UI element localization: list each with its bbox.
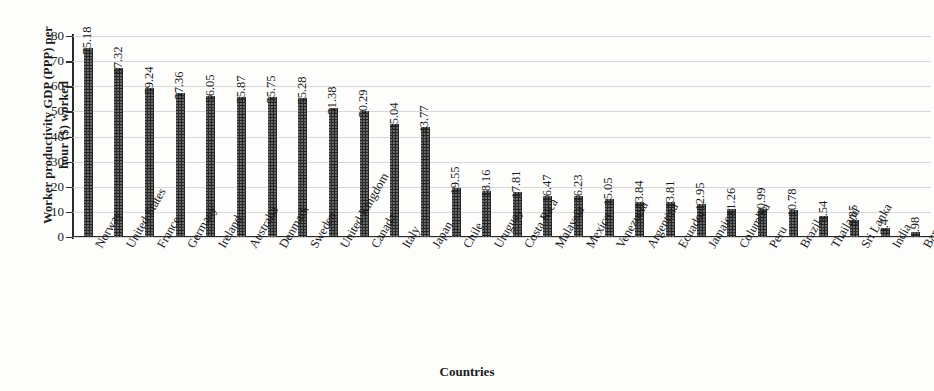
y-axis-tick-label: 80: [20, 29, 64, 42]
gridline: [73, 187, 931, 188]
x-axis-category-label: Venezuela: [614, 244, 625, 250]
y-axis-tick-label: 10: [20, 205, 64, 218]
gridline: [73, 162, 931, 163]
bar-value-label: 45.04: [387, 102, 400, 130]
x-axis-category-label: Mexico: [584, 244, 595, 250]
bar-value-label: 56.05: [203, 75, 216, 103]
x-axis-category-label: Chile: [461, 244, 472, 250]
bar-value-label: 19.55: [449, 166, 462, 194]
bar-value-label: 18.16: [479, 170, 492, 198]
x-axis-category-label: Bangladesh: [921, 244, 932, 250]
bar-value-label: 67.32: [111, 46, 124, 74]
x-axis-category-label: Australia: [247, 244, 258, 250]
bar-value-label: 50.29: [357, 89, 370, 117]
y-axis-tick-label: 50: [20, 104, 64, 117]
plot-area: 75.1867.3259.2457.3656.0555.8755.7555.28…: [73, 36, 931, 237]
x-axis-category-label: Japan: [430, 244, 441, 250]
chart-figure: Worker productivity GDP (PPP) per hour (…: [0, 0, 934, 391]
bar-value-label: 59.24: [142, 67, 155, 95]
y-axis-tick-label: 20: [20, 180, 64, 193]
gridline: [73, 61, 931, 62]
y-axis-tick-label: 0: [20, 230, 64, 243]
y-axis-tick-mark: [66, 61, 73, 62]
x-axis-category-label: Italy: [400, 244, 411, 250]
bar-value-label: 8.54: [816, 200, 829, 222]
bar-value-label: 55.75: [265, 75, 278, 103]
y-axis-tick-mark: [66, 162, 73, 163]
x-axis-category-label: United Kingdom: [338, 244, 349, 250]
bar: [84, 48, 93, 237]
bar-value-label: 15.05: [602, 178, 615, 206]
gridline: [73, 137, 931, 138]
bar: [421, 127, 430, 237]
x-axis-title: Countries: [0, 364, 934, 380]
bar-value-label: 16.23: [571, 175, 584, 203]
x-axis-category-label: United States: [124, 244, 135, 250]
x-axis-category-label: Jamaica: [706, 244, 717, 250]
x-axis-category-label: Ecuador: [676, 244, 687, 250]
y-axis-tick-label: 70: [20, 54, 64, 67]
bar-value-label: 57.36: [173, 71, 186, 99]
y-axis-tick-mark: [66, 111, 73, 112]
x-axis-category-label: Denmark: [277, 244, 288, 250]
y-axis-tick-label: 30: [20, 155, 64, 168]
x-axis-category-label: Peru: [767, 244, 778, 250]
gridline: [73, 111, 931, 112]
bar-value-label: 55.28: [295, 76, 308, 104]
x-axis-category-label: Brazil: [798, 244, 809, 250]
bar-value-label: 55.87: [234, 75, 247, 103]
x-axis-category-label: Uruguay: [492, 244, 503, 250]
x-axis-category-label: Norway: [93, 244, 104, 250]
x-axis-category-label: India: [890, 244, 901, 250]
x-axis-category-label: Canada: [369, 244, 380, 250]
y-axis-tick-labels: 80706050403020100: [16, 0, 64, 260]
x-axis-category-label: Sweden: [308, 244, 319, 250]
bar-value-label: 75.18: [81, 26, 94, 54]
gridline: [73, 36, 931, 37]
y-axis-tick-mark: [66, 137, 73, 138]
y-axis-tick-mark: [66, 36, 73, 37]
x-axis-category-label: Sri Lanka: [859, 244, 870, 250]
x-axis-category-label: Argentina: [645, 244, 656, 250]
y-axis-tick-label: 40: [20, 130, 64, 143]
x-axis-category-label: Ireland: [216, 244, 227, 250]
x-axis-category-label: France: [155, 244, 166, 250]
bar-value-label: 17.81: [510, 171, 523, 199]
y-axis-tick-mark: [66, 187, 73, 188]
x-axis-category-label: Thailand: [829, 244, 840, 250]
bar-value-label: 43.77: [418, 105, 431, 133]
x-axis-category-label: Costa Rica: [522, 244, 533, 250]
y-axis-tick-label: 60: [20, 79, 64, 92]
x-axis-category-label: Malaysia: [553, 244, 564, 250]
bar: [176, 93, 185, 237]
x-axis-category-label: Germany: [185, 244, 196, 250]
y-axis-tick-mark: [66, 212, 73, 213]
x-axis-category-label: Columbia: [737, 244, 748, 250]
bar-value-label: 10.78: [786, 188, 799, 216]
y-axis-tick-mark: [66, 237, 73, 238]
y-axis-tick-mark: [66, 86, 73, 87]
bar-value-label: 51.38: [326, 86, 339, 114]
